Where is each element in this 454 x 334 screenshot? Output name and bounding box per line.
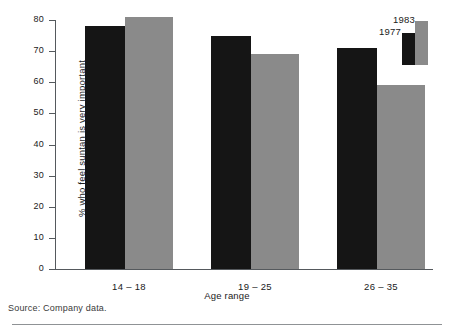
y-axis-tick-label: 70 — [22, 45, 44, 55]
y-axis-tick-label: 80 — [22, 14, 44, 24]
y-axis-tick — [49, 51, 55, 52]
y-axis-tick — [49, 176, 55, 177]
y-axis-tick-label: 30 — [22, 170, 44, 180]
y-axis-tick — [49, 20, 55, 21]
y-axis-tick-label: 0 — [22, 263, 44, 273]
x-axis-spine — [55, 269, 433, 270]
y-axis-tick — [49, 113, 55, 114]
bar — [337, 48, 377, 269]
legend-swatch-1977 — [402, 33, 415, 65]
chart-figure: 80706050403020100 14 – 1819 – 2526 – 35 … — [0, 0, 454, 334]
bar — [211, 36, 251, 269]
y-axis-title: % who feel suntan is very important — [76, 29, 87, 249]
bar — [251, 54, 299, 269]
footer-divider — [12, 324, 442, 325]
y-axis-tick — [49, 269, 55, 270]
y-axis-tick-label: 40 — [22, 139, 44, 149]
y-axis-tick-label: 20 — [22, 201, 44, 211]
plot-area: 80706050403020100 14 – 1819 – 2526 – 35 … — [55, 20, 433, 269]
bar — [125, 17, 173, 269]
y-axis-tick — [49, 145, 55, 146]
bar — [85, 26, 125, 269]
chart-legend: 1977 1983 — [393, 16, 445, 68]
y-axis-tick — [49, 82, 55, 83]
source-note: Source: Company data. — [8, 303, 107, 313]
y-axis-tick-label: 60 — [22, 76, 44, 86]
legend-swatch-1983 — [415, 21, 428, 65]
y-axis-tick-label: 50 — [22, 107, 44, 117]
x-axis-title: Age range — [0, 290, 454, 301]
y-axis-tick — [49, 238, 55, 239]
y-axis-tick-label: 10 — [22, 232, 44, 242]
bar — [377, 85, 425, 269]
legend-label-1983: 1983 — [393, 14, 415, 25]
legend-label-1977: 1977 — [379, 26, 401, 37]
y-axis-tick — [49, 207, 55, 208]
y-axis-spine — [55, 20, 56, 269]
